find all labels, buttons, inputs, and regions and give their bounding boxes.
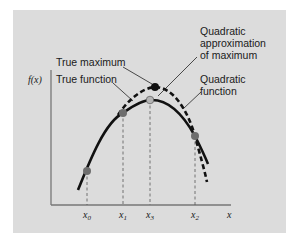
tick-x3: x3 xyxy=(145,209,154,222)
guide-lines xyxy=(87,100,195,205)
tick-x1: x1 xyxy=(118,209,127,222)
quadratic-approx-label-3: of maximum xyxy=(200,49,257,61)
point-x1 xyxy=(119,109,127,117)
point-x0 xyxy=(83,167,91,175)
quadratic-function-label-1: Quadratic xyxy=(200,73,246,85)
true-maximum-label: True maximum xyxy=(56,56,126,68)
x-axis-label: x xyxy=(226,209,232,220)
true-function-curve xyxy=(78,100,208,190)
quadratic-approx-label-1: Quadratic xyxy=(200,25,246,37)
point-x3-approx-max xyxy=(146,96,154,104)
tick-x2: x2 xyxy=(190,209,199,222)
quadratic-approx-label-2: approximation xyxy=(200,37,266,49)
true-function-label: True function xyxy=(56,73,117,85)
true-maximum-point xyxy=(151,83,159,91)
y-axis-label: f(x) xyxy=(28,74,43,86)
quadratic-interpolation-diagram: True maximum True function Quadratic app… xyxy=(0,0,302,243)
quadratic-function-label-2: function xyxy=(200,85,237,97)
point-x2 xyxy=(191,132,199,140)
tick-x0: x0 xyxy=(82,209,91,222)
